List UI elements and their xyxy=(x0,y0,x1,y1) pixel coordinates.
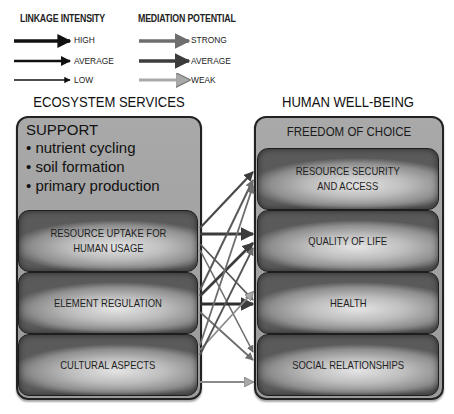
legend-mediation-arrows xyxy=(139,41,189,80)
link-arrows xyxy=(200,172,253,382)
legend-linkage-arrows xyxy=(14,41,70,80)
arrows-layer xyxy=(0,0,454,414)
